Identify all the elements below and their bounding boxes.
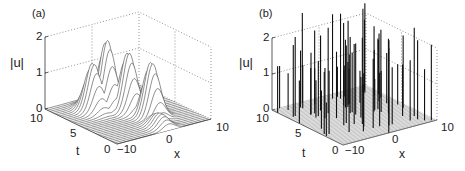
panel-a-t-axis-label: t	[76, 145, 79, 157]
panel-a-t-tick-0: 0	[104, 144, 110, 156]
panel-a-label: (a)	[32, 8, 45, 19]
panel-a-x-axis-label: x	[174, 148, 180, 160]
panel-b-t-tick-5: 5	[295, 128, 301, 140]
panel-a-t-tick-10: 10	[30, 113, 43, 125]
panel-b-label: (b)	[259, 8, 272, 19]
panel-b-plot	[272, 3, 437, 145]
panel-b-z-axis-label: |u|	[239, 56, 253, 69]
panel-a-x-tick-10: 10	[216, 122, 229, 134]
panel-a-plot	[45, 12, 211, 144]
panel-a-z-axis-label: |u|	[10, 56, 24, 69]
panel-a-x-tick-minus10: −10	[117, 144, 137, 156]
panel-b-t-axis-label: t	[302, 147, 305, 159]
panel-b-z-tick-1: 1	[263, 67, 269, 79]
panel-b-x-axis-label: x	[399, 148, 405, 160]
panel-b-t-tick-0: 0	[332, 145, 338, 157]
panel-a-z-tick-1: 1	[36, 67, 42, 79]
panel-a-x-tick-0: 0	[166, 134, 172, 146]
panel-b-x-tick-0: 0	[392, 134, 398, 146]
panel-b-t-tick-10: 10	[256, 113, 269, 125]
panel-a-z-tick-2: 2	[36, 31, 42, 43]
panel-a-t-tick-5: 5	[70, 128, 76, 140]
panel-b-x-tick-minus10: −10	[345, 145, 365, 157]
panel-b-z-tick-2: 2	[263, 32, 269, 44]
panel-b-x-tick-10: 10	[441, 122, 454, 134]
